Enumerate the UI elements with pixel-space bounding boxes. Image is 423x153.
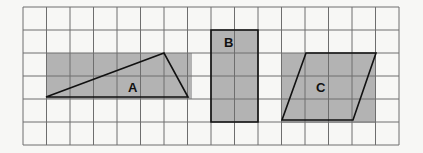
grid-diagram: ABC [0,0,423,153]
shape-b-label: B [224,35,233,50]
shape-a-label: A [128,80,138,95]
shape-c-label: C [316,80,326,95]
